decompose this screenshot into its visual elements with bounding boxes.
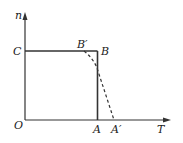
point-label-A-prime: A′ — [110, 123, 122, 136]
x-axis-label: T — [157, 123, 166, 136]
n-T-diagram: n C B′ B O A A′ T — [0, 0, 183, 143]
point-label-B: B — [100, 45, 109, 58]
x-axis-arrow-icon — [163, 118, 171, 123]
point-label-C: C — [13, 45, 22, 58]
point-label-B-prime: B′ — [76, 38, 88, 51]
origin-label: O — [14, 119, 23, 132]
y-axis-label: n — [15, 9, 22, 22]
y-axis-arrow-icon — [23, 12, 28, 20]
dashed-curve-B'A' — [84, 51, 114, 120]
point-label-A: A — [92, 123, 101, 136]
